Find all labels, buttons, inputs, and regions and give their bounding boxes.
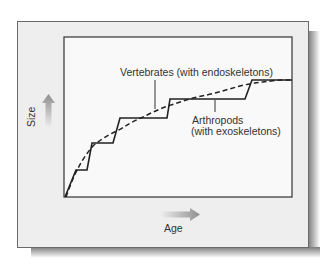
- arthropods-label-line2: (with exoskeletons): [191, 125, 281, 137]
- right-arrow-icon: [162, 208, 200, 221]
- vertebrates-label: Vertebrates (with endoskeletons): [120, 66, 273, 78]
- x-axis-label: Age: [164, 222, 183, 234]
- y-axis-label: Size: [25, 97, 37, 127]
- up-arrow-icon: [42, 94, 55, 126]
- plot-area: [64, 37, 292, 197]
